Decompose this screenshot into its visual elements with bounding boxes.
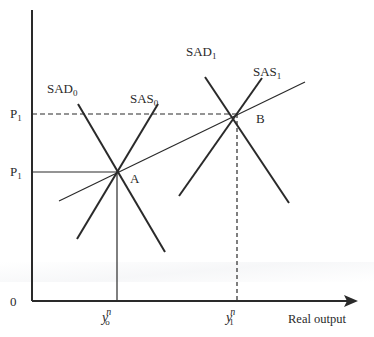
sas0-label: SAS0 — [130, 92, 158, 108]
sad0-curve — [78, 104, 165, 252]
x-tick-y0: yno — [102, 311, 118, 325]
point-b-label: B — [256, 112, 265, 125]
x-axis-title: Real output — [288, 313, 346, 326]
long-run-trend-line — [59, 82, 305, 201]
origin-label: 0 — [10, 295, 17, 308]
sas0-label-text: SAS — [130, 91, 154, 106]
sad1-label-text: SAD — [186, 44, 212, 59]
point-a-label: A — [130, 172, 139, 185]
sad1-label: SAD1 — [186, 45, 217, 61]
sas1-label-sub: 1 — [277, 71, 282, 81]
sad1-label-sub: 1 — [212, 51, 217, 61]
x-tick-y0-sup: n — [106, 306, 111, 317]
sad0-label: SAD0 — [47, 82, 78, 98]
sas1-label-text: SAS — [253, 64, 277, 79]
y-tick-lower: P1 — [10, 165, 22, 181]
sas0-label-sub: 0 — [154, 98, 159, 108]
x-tick-y1-sub: 1 — [229, 317, 234, 327]
y-tick-upper: P1 — [10, 107, 22, 123]
sad0-label-text: SAD — [47, 81, 73, 96]
aggregate-supply-demand-diagram: SAD0 SAS0 SAD1 SAS1 A B P1 P1 0 yno yn1 … — [0, 0, 374, 337]
x-tick-y1: yn1 — [226, 311, 242, 325]
y-tick-upper-sub: 1 — [17, 113, 22, 123]
x-tick-y1-sup: n — [230, 306, 235, 317]
y-tick-lower-sub: 1 — [17, 171, 22, 181]
x-tick-y0-sub: o — [105, 317, 110, 327]
sas1-label: SAS1 — [253, 65, 281, 81]
sad0-label-sub: 0 — [73, 88, 78, 98]
